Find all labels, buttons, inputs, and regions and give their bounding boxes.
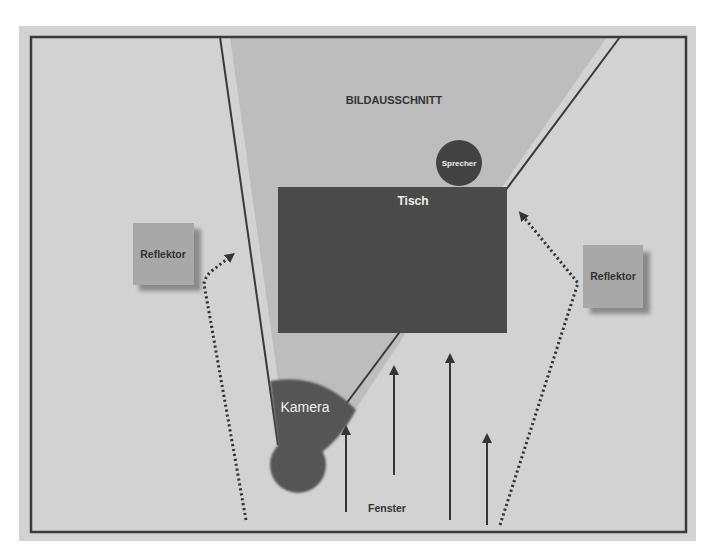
reflector-right-label: Reflektor [590, 270, 636, 282]
camera-label: Kamera [280, 399, 329, 415]
window-label: Fenster [368, 502, 406, 514]
table-shape [278, 187, 507, 333]
reflector-left-label: Reflektor [140, 248, 186, 260]
speaker-label: Sprecher [442, 159, 477, 168]
table-label: Tisch [397, 194, 428, 208]
lighting-setup-diagram: BILDAUSSCHNITT Tisch Sprecher Reflektor … [0, 0, 706, 549]
field-of-view-label: BILDAUSSCHNITT [346, 94, 443, 106]
